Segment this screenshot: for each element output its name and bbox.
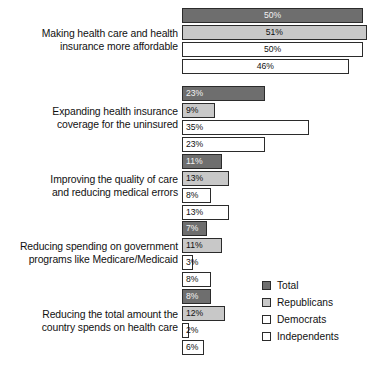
bar-republicans: 12% [182, 306, 225, 321]
bar-independents: 23% [182, 137, 265, 152]
bar-track: 50% 51% 50% 46% [182, 6, 380, 76]
bar-value-label: 7% [183, 224, 198, 233]
chart-legend: Total Republicans Democrats Independents [262, 277, 374, 345]
bar-independents: 8% [182, 272, 211, 287]
legend-label: Independents [277, 331, 339, 342]
bar-democrats: 3% [182, 255, 193, 270]
bar-value-label: 6% [183, 343, 198, 352]
bar-independents: 13% [182, 205, 229, 220]
legend-swatch-icon [262, 281, 271, 290]
legend-item-republicans: Republicans [262, 294, 374, 311]
bar-total: 8% [182, 289, 211, 304]
legend-item-democrats: Democrats [262, 311, 374, 328]
legend-swatch-icon [262, 315, 271, 324]
category-label: Expanding health insurance coverage for … [0, 106, 182, 131]
bar-track: 23% 9% 35% 23% [182, 84, 380, 154]
category-label: Improving the quality of care and reduci… [0, 174, 182, 199]
bar-total: 23% [182, 86, 265, 101]
legend-swatch-icon [262, 298, 271, 307]
bar-republicans: 9% [182, 103, 215, 118]
grouped-bar-chart: Making health care and health insurance … [0, 0, 380, 366]
chart-group: Improving the quality of care and reduci… [0, 152, 380, 222]
bar-value-label: 50% [264, 45, 281, 54]
category-label: Making health care and health insurance … [0, 28, 182, 53]
bar-democrats: 50% [182, 42, 363, 57]
bar-value-label: 50% [264, 11, 281, 20]
legend-swatch-icon [262, 332, 271, 341]
bar-democrats: 35% [182, 120, 309, 135]
bar-independents: 46% [182, 59, 349, 74]
bar-value-label: 3% [183, 258, 198, 267]
bar-independents: 6% [182, 340, 204, 355]
bar-value-label: 23% [183, 140, 203, 149]
bar-value-label: 2% [183, 326, 198, 335]
bar-value-label: 11% [183, 241, 203, 250]
legend-label: Democrats [277, 314, 326, 325]
category-label: Reducing spending on government programs… [0, 241, 182, 266]
bar-value-label: 13% [183, 174, 203, 183]
bar-republicans: 11% [182, 238, 222, 253]
bar-republicans: 51% [182, 25, 367, 40]
chart-group: Making health care and health insurance … [0, 6, 380, 76]
bar-value-label: 8% [183, 292, 198, 301]
legend-item-independents: Independents [262, 328, 374, 345]
bar-value-label: 51% [266, 28, 283, 37]
bar-value-label: 12% [183, 309, 203, 318]
bar-value-label: 46% [257, 62, 274, 71]
bar-value-label: 23% [183, 89, 203, 98]
bar-value-label: 11% [183, 157, 203, 166]
bar-total: 11% [182, 154, 222, 169]
bar-republicans: 13% [182, 171, 229, 186]
bar-value-label: 35% [183, 123, 203, 132]
bar-value-label: 13% [183, 208, 203, 217]
legend-item-total: Total [262, 277, 374, 294]
bar-democrats: 2% [182, 323, 189, 338]
bar-value-label: 8% [183, 275, 198, 284]
bar-total: 7% [182, 221, 207, 236]
bar-democrats: 8% [182, 188, 211, 203]
bar-value-label: 8% [183, 191, 198, 200]
legend-label: Total [277, 280, 299, 291]
bar-total: 50% [182, 8, 363, 23]
bar-track: 11% 13% 8% 13% [182, 152, 380, 222]
category-label: Reducing the total amount the country sp… [0, 309, 182, 334]
bar-value-label: 9% [183, 106, 198, 115]
chart-group: Expanding health insurance coverage for … [0, 84, 380, 154]
legend-label: Republicans [277, 297, 333, 308]
